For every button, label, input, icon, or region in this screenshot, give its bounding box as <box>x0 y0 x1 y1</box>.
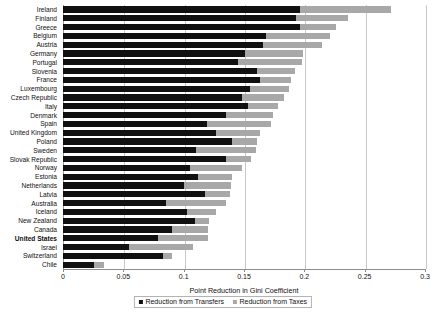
bar-segment-taxes <box>205 191 229 197</box>
category-label: Slovak Republic <box>10 155 57 164</box>
bar-row <box>63 93 425 102</box>
bar-segment-transfers <box>63 15 296 21</box>
bar-row <box>63 137 425 146</box>
category-label: Greece <box>35 23 57 32</box>
x-tick-label: 0 <box>61 273 65 280</box>
bar-segment-taxes <box>94 262 104 268</box>
category-label: Austria <box>36 40 57 49</box>
bar-segment-transfers <box>63 235 158 241</box>
bar-row <box>63 234 425 243</box>
x-tick-label: 0.3 <box>420 273 430 280</box>
bar-segment-transfers <box>63 191 205 197</box>
bar-row <box>63 243 425 252</box>
bar-segment-taxes <box>187 209 216 215</box>
bar-segment-taxes <box>158 235 207 241</box>
bar-segment-transfers <box>63 253 163 259</box>
bar-segment-taxes <box>238 59 302 65</box>
bar-segment-transfers <box>63 103 248 109</box>
bar-segment-transfers <box>63 94 242 100</box>
category-label: Netherlands <box>21 181 57 190</box>
bar-segment-transfers <box>63 42 263 48</box>
bar-segment-transfers <box>63 50 245 56</box>
x-tick-mark <box>184 269 185 272</box>
category-label: Chile <box>42 260 57 269</box>
bar-segment-taxes <box>216 130 259 136</box>
bar-segment-transfers <box>63 156 226 162</box>
bar-row <box>63 102 425 111</box>
legend-swatch-transfers <box>139 300 143 304</box>
bar-segment-taxes <box>195 218 209 224</box>
category-label: Germany <box>30 49 57 58</box>
bar-segment-transfers <box>63 147 196 153</box>
x-tick-label: 0.15 <box>237 273 251 280</box>
x-tick-mark <box>304 269 305 272</box>
bar-segment-transfers <box>63 77 260 83</box>
bar-segment-transfers <box>63 174 198 180</box>
category-label: Switzerland <box>23 251 57 260</box>
bar-segment-transfers <box>63 68 257 74</box>
bar-segment-transfers <box>63 33 266 39</box>
x-tick-label: 0.2 <box>299 273 309 280</box>
bar-row <box>63 31 425 40</box>
category-label: United States <box>15 234 57 243</box>
category-label: Belgium <box>33 31 57 40</box>
bar-segment-taxes <box>300 24 336 30</box>
bar-segment-taxes <box>263 42 322 48</box>
bar-segment-taxes <box>198 174 232 180</box>
x-tick-label: 0.1 <box>179 273 189 280</box>
bar-row <box>63 14 425 23</box>
bar-row <box>63 146 425 155</box>
x-tick-mark <box>123 269 124 272</box>
legend-item-transfers: Reduction from Transfers <box>139 298 224 305</box>
bar-segment-taxes <box>163 253 171 259</box>
bar-segment-taxes <box>300 6 392 12</box>
bar-segment-transfers <box>63 262 94 268</box>
category-label: Denmark <box>30 111 57 120</box>
bar-segment-transfers <box>63 226 172 232</box>
bar-segment-taxes <box>207 121 271 127</box>
bar-segment-transfers <box>63 121 207 127</box>
bar-segment-taxes <box>257 68 294 74</box>
bar-segment-taxes <box>196 147 256 153</box>
bar-segment-transfers <box>63 130 216 136</box>
category-label: Portugal <box>32 58 57 67</box>
bar-row <box>63 163 425 172</box>
bar-segment-taxes <box>226 156 251 162</box>
category-label: Poland <box>36 137 57 146</box>
bar-row <box>63 207 425 216</box>
category-label: Slovenia <box>32 67 57 76</box>
x-tick-mark <box>63 269 64 272</box>
bar-segment-taxes <box>190 165 242 171</box>
bar-segment-transfers <box>63 200 166 206</box>
bar-row <box>63 49 425 58</box>
bar-segment-taxes <box>232 138 257 144</box>
legend-swatch-taxes <box>233 300 237 304</box>
bar-row <box>63 75 425 84</box>
category-label: New Zealand <box>18 216 57 225</box>
bar-segment-taxes <box>184 182 231 188</box>
bar-segment-transfers <box>63 86 250 92</box>
bar-segment-transfers <box>63 6 300 12</box>
bar-segment-taxes <box>245 50 303 56</box>
bar-segment-transfers <box>63 112 226 118</box>
category-axis-labels: IrelandFinlandGreeceBelgiumAustriaGerman… <box>0 5 60 269</box>
category-label: Iceland <box>36 207 57 216</box>
bar-segment-taxes <box>266 33 330 39</box>
bar-row <box>63 84 425 93</box>
category-label: Estonia <box>35 172 57 181</box>
x-tick-label: 0.25 <box>358 273 372 280</box>
bar-segment-transfers <box>63 182 184 188</box>
category-label: Canada <box>34 225 57 234</box>
category-label: Spain <box>40 119 57 128</box>
bar-segment-taxes <box>250 86 289 92</box>
category-label: Czech Republic <box>11 93 57 102</box>
bar-segment-transfers <box>63 59 238 65</box>
category-label: Sweden <box>33 146 57 155</box>
bar-row <box>63 251 425 260</box>
bar-segment-transfers <box>63 138 232 144</box>
category-label: Finland <box>35 14 57 23</box>
legend-item-taxes: Reduction from Taxes <box>233 298 307 305</box>
bar-row <box>63 119 425 128</box>
bar-row <box>63 260 425 269</box>
bar-row <box>63 190 425 199</box>
